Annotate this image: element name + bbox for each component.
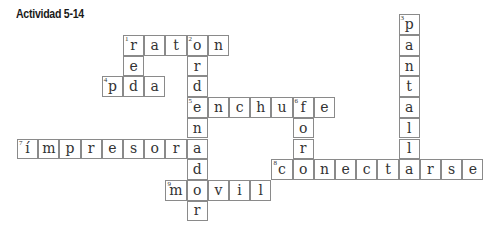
- cell-letter: r: [88, 141, 95, 155]
- crossword-cell[interactable]: r: [420, 159, 441, 180]
- cell-letter: n: [193, 121, 202, 135]
- crossword-cell[interactable]: o: [187, 180, 208, 201]
- crossword-cell[interactable]: e: [123, 56, 144, 77]
- crossword-cell[interactable]: o: [144, 139, 165, 160]
- cell-letter: d: [193, 79, 202, 93]
- cell-letter: e: [469, 162, 477, 176]
- crossword-cell[interactable]: a: [187, 139, 208, 160]
- crossword-cell[interactable]: p: [59, 139, 80, 160]
- cell-letter: r: [300, 141, 307, 155]
- crossword-cell[interactable]: n: [399, 56, 420, 77]
- cell-letter: a: [193, 141, 201, 155]
- cell-letter: a: [405, 100, 413, 114]
- cell-letter: e: [129, 59, 137, 73]
- cell-letter: r: [194, 59, 201, 73]
- cell-letter: a: [405, 38, 413, 52]
- cell-letter: e: [193, 100, 201, 114]
- crossword-cell[interactable]: a: [144, 35, 165, 56]
- crossword-cell[interactable]: t: [377, 159, 398, 180]
- crossword-cell[interactable]: r: [165, 139, 186, 160]
- cell-letter: v: [214, 183, 222, 197]
- clue-number: 7: [19, 140, 23, 147]
- crossword-cell[interactable]: d: [187, 159, 208, 180]
- cell-letter: o: [299, 162, 307, 176]
- clue-number: 4: [104, 77, 108, 84]
- cell-letter: s: [448, 162, 455, 176]
- crossword-cell[interactable]: m: [38, 139, 59, 160]
- crossword-cell[interactable]: r: [187, 201, 208, 222]
- crossword-cell[interactable]: a: [399, 97, 420, 118]
- crossword-cell[interactable]: e: [102, 139, 123, 160]
- cell-letter: n: [214, 100, 223, 114]
- cell-letter: a: [151, 79, 159, 93]
- crossword-cell[interactable]: e: [314, 97, 335, 118]
- crossword-cell[interactable]: s: [123, 139, 144, 160]
- crossword-cell[interactable]: e: [462, 159, 483, 180]
- cell-letter: m: [42, 141, 55, 155]
- cell-letter: o: [193, 183, 201, 197]
- cell-letter: u: [277, 100, 286, 114]
- crossword-cell[interactable]: 3p: [399, 14, 420, 35]
- crossword-cell[interactable]: t: [399, 76, 420, 97]
- crossword-cell[interactable]: o: [293, 159, 314, 180]
- crossword-cell[interactable]: 8c: [271, 159, 292, 180]
- cell-letter: o: [151, 141, 159, 155]
- cell-letter: e: [108, 141, 116, 155]
- cell-letter: c: [278, 162, 286, 176]
- clue-number: 8: [273, 160, 277, 167]
- crossword-cell[interactable]: n: [314, 159, 335, 180]
- crossword-cell[interactable]: l: [399, 118, 420, 139]
- crossword-cell[interactable]: 2o: [187, 35, 208, 56]
- cell-letter: p: [66, 141, 75, 155]
- crossword-cell[interactable]: n: [187, 118, 208, 139]
- crossword-cell[interactable]: r: [293, 139, 314, 160]
- crossword-cell[interactable]: t: [165, 35, 186, 56]
- crossword-cell[interactable]: v: [208, 180, 229, 201]
- crossword-cell[interactable]: r: [81, 139, 102, 160]
- crossword-cell[interactable]: l: [250, 180, 271, 201]
- crossword-cell[interactable]: d: [123, 76, 144, 97]
- crossword-cell[interactable]: h: [250, 97, 271, 118]
- crossword-cell[interactable]: s: [441, 159, 462, 180]
- cell-letter: t: [385, 162, 391, 176]
- crossword-cell[interactable]: o: [293, 118, 314, 139]
- crossword-cell[interactable]: i: [229, 180, 250, 201]
- crossword-cell[interactable]: n: [208, 97, 229, 118]
- crossword-cell[interactable]: a: [399, 35, 420, 56]
- crossword-cell[interactable]: 7í: [17, 139, 38, 160]
- crossword-cell[interactable]: 4p: [102, 76, 123, 97]
- cell-letter: d: [129, 79, 138, 93]
- cell-letter: c: [236, 100, 244, 114]
- cell-letter: m: [169, 183, 182, 197]
- crossword-cell[interactable]: 9m: [165, 180, 186, 201]
- crossword-cell[interactable]: 1r: [123, 35, 144, 56]
- crossword-cell[interactable]: d: [187, 76, 208, 97]
- cell-letter: t: [173, 38, 179, 52]
- crossword-cell[interactable]: a: [399, 159, 420, 180]
- clue-number: 3: [401, 15, 405, 22]
- crossword-cell[interactable]: l: [399, 139, 420, 160]
- crossword-cell[interactable]: e: [335, 159, 356, 180]
- crossword-cell[interactable]: c: [229, 97, 250, 118]
- crossword-cell[interactable]: c: [356, 159, 377, 180]
- cell-letter: r: [130, 38, 137, 52]
- cell-letter: l: [407, 121, 411, 135]
- cell-letter: n: [320, 162, 329, 176]
- crossword-cell[interactable]: n: [208, 35, 229, 56]
- crossword-cell[interactable]: 5e: [187, 97, 208, 118]
- cell-letter: l: [407, 141, 411, 155]
- cell-letter: c: [363, 162, 371, 176]
- cell-letter: o: [299, 121, 307, 135]
- crossword-cell[interactable]: 6f: [293, 97, 314, 118]
- crossword-cell[interactable]: r: [187, 56, 208, 77]
- cell-letter: a: [151, 38, 159, 52]
- crossword-cell[interactable]: a: [144, 76, 165, 97]
- cell-letter: n: [214, 38, 223, 52]
- clue-number: 9: [167, 181, 171, 188]
- cell-letter: r: [427, 162, 434, 176]
- cell-letter: i: [237, 183, 241, 197]
- crossword-cell[interactable]: u: [271, 97, 292, 118]
- cell-letter: e: [341, 162, 349, 176]
- crossword-grid: 1rat2onrd5enador3pantalla4pdanchu6feoro7…: [0, 0, 497, 235]
- cell-letter: p: [108, 79, 117, 93]
